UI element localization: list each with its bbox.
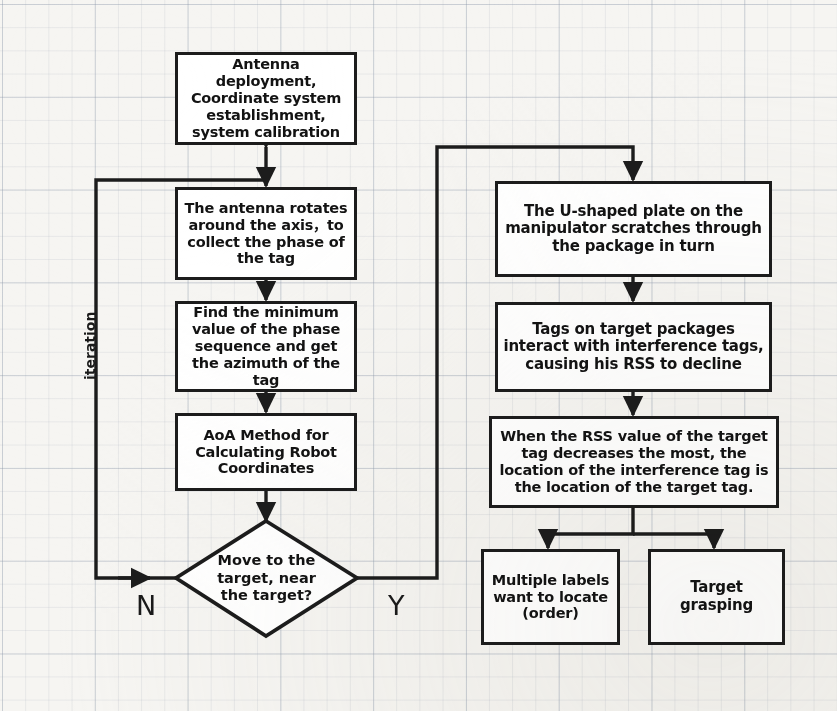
flowchart-canvas: Antenna deployment, Coordinate system es… xyxy=(0,0,837,711)
edge-label-iteration: iteration xyxy=(82,312,98,380)
node-tags-interact-label: Tags on target packages interact with in… xyxy=(502,321,765,374)
node-rss-rule[interactable]: When the RSS value of the target tag dec… xyxy=(489,416,779,508)
node-u-shaped-plate-label: The U-shaped plate on the manipulator sc… xyxy=(502,203,765,256)
node-antenna-deployment[interactable]: Antenna deployment, Coordinate system es… xyxy=(175,52,357,145)
node-multiple-labels[interactable]: Multiple labels want to locate (order) xyxy=(481,549,620,645)
node-tags-interact[interactable]: Tags on target packages interact with in… xyxy=(495,302,772,392)
node-antenna-rotates-label: The antenna rotates around the axis，to c… xyxy=(182,200,350,268)
edge-label-yes: Y xyxy=(388,590,405,621)
edge-rssrule-split xyxy=(548,508,633,534)
node-u-shaped-plate[interactable]: The U-shaped plate on the manipulator sc… xyxy=(495,181,772,277)
node-aoa-method[interactable]: AoA Method for Calculating Robot Coordin… xyxy=(175,413,357,491)
node-find-minimum-phase[interactable]: Find the minimum value of the phase sequ… xyxy=(175,301,357,392)
edge-label-no: N xyxy=(136,590,156,621)
node-decision-move-to-target[interactable]: Move to the target, near the target? xyxy=(176,521,357,636)
node-antenna-rotates[interactable]: The antenna rotates around the axis，to c… xyxy=(175,187,357,280)
node-antenna-deployment-label: Antenna deployment, Coordinate system es… xyxy=(182,56,350,141)
node-aoa-method-label: AoA Method for Calculating Robot Coordin… xyxy=(182,427,350,478)
node-multiple-labels-label: Multiple labels want to locate (order) xyxy=(488,572,613,623)
node-find-minimum-phase-label: Find the minimum value of the phase sequ… xyxy=(182,304,350,389)
node-decision-move-to-target-label: Move to the target, near the target? xyxy=(214,552,319,604)
node-target-grasping[interactable]: Target grasping xyxy=(648,549,785,645)
node-target-grasping-label: Target grasping xyxy=(655,579,778,614)
node-rss-rule-label: When the RSS value of the target tag dec… xyxy=(496,428,772,496)
